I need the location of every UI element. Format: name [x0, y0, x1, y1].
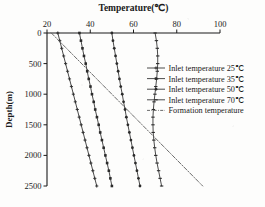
marker-square: [80, 39, 83, 42]
legend: Inlet temperature 25℃Inlet temperature 3…: [147, 64, 244, 115]
marker-square: [111, 185, 114, 188]
marker-square: [84, 62, 87, 65]
temperature-depth-chart: 2040608010005001000150020002500Temperatu…: [0, 0, 265, 207]
marker-square: [102, 146, 105, 149]
marker-square: [109, 177, 112, 180]
marker-square: [101, 139, 104, 142]
y-tick-label: 2500: [25, 181, 42, 191]
marker-square: [89, 85, 92, 88]
marker-circle: [139, 185, 142, 188]
x-tick-label: 80: [173, 19, 182, 29]
marker-circle: [110, 32, 113, 35]
x-tick-label: 60: [129, 19, 138, 29]
marker-circle: [126, 123, 129, 126]
chart-canvas: 2040608010005001000150020002500Temperatu…: [0, 0, 265, 207]
marker-circle: [119, 85, 122, 88]
marker-circle: [114, 55, 117, 58]
marker-square: [104, 154, 107, 157]
x-tick-label: 100: [214, 19, 227, 29]
marker-square: [108, 169, 111, 172]
marker-square: [106, 162, 109, 165]
y-tick-label: 1000: [25, 89, 42, 99]
legend-label-4: Inlet temperature 70℃: [169, 96, 244, 105]
marker-square: [91, 93, 94, 96]
marker-square: [94, 108, 97, 111]
series-2: [78, 32, 113, 188]
marker-circle: [118, 78, 121, 81]
marker-square: [81, 47, 84, 50]
y-tick-label: 2000: [25, 150, 42, 160]
marker-square: [92, 101, 95, 104]
marker-circle: [128, 131, 131, 134]
chart-title: Temperature(℃): [98, 3, 168, 14]
marker-square: [78, 32, 81, 35]
y-tick-label: 1500: [25, 120, 42, 130]
marker-square: [96, 116, 99, 119]
series-3: [110, 32, 141, 188]
marker-circle: [112, 39, 115, 42]
marker-circle: [115, 62, 118, 65]
marker-circle: [131, 146, 134, 149]
marker-circle: [121, 93, 124, 96]
marker-circle: [136, 169, 139, 172]
series-1: [56, 31, 98, 187]
x-tick-label: 40: [86, 19, 95, 29]
legend-label-2: Inlet temperature 35℃: [169, 75, 244, 84]
marker-square: [83, 55, 86, 58]
legend-label-1: Inlet temperature 25℃: [169, 64, 244, 73]
marker-square: [97, 124, 100, 127]
marker-circle: [137, 177, 140, 180]
marker-circle: [117, 70, 120, 73]
marker-square: [87, 78, 90, 81]
marker-square: [155, 77, 158, 80]
marker-circle: [113, 47, 116, 50]
legend-label-3: Inlet temperature 50℃: [169, 85, 244, 94]
x-tick-label: 20: [43, 19, 52, 29]
marker-square: [99, 131, 102, 134]
marker-circle: [134, 162, 137, 165]
marker-circle: [130, 139, 133, 142]
y-tick-label: 500: [29, 59, 42, 69]
y-axis-label: Depth(m): [4, 91, 14, 128]
marker-circle: [122, 100, 125, 103]
marker-circle: [155, 88, 158, 91]
marker-circle: [125, 116, 128, 119]
y-tick-label: 0: [37, 28, 41, 38]
legend-label-5: Formation temperature: [169, 106, 245, 115]
series-4: [151, 33, 163, 186]
marker-circle: [133, 154, 136, 157]
